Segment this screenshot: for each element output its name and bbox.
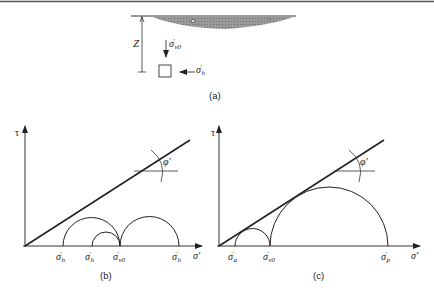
caption-a: (a)	[209, 90, 221, 101]
panel-c	[217, 126, 420, 247]
sigma-h-active-label: σ′h	[56, 250, 65, 264]
sigma-p-label: σ′p	[381, 250, 390, 264]
soil-mass	[150, 16, 296, 29]
mohr-circle-passive	[120, 217, 179, 246]
tau-axis-label: τ	[15, 127, 19, 138]
caption-c: (c)	[313, 270, 324, 281]
caption-b: (b)	[100, 270, 112, 281]
mohr-circle-passive	[270, 187, 388, 246]
tau-axis-label: τ	[211, 127, 215, 138]
friction-angle-label: φ′	[163, 156, 171, 167]
depth-label: Z	[133, 37, 139, 49]
sigma-axis-label: σ′	[193, 250, 200, 261]
sigma-v0-label: σ′v0	[113, 250, 125, 264]
sigma-h-passive-label: σ′h	[172, 250, 181, 264]
soil-pebble	[191, 19, 194, 22]
sigma-v0-label: σ′v0	[263, 250, 275, 264]
sigma-h-intermediate-label: σ′h	[85, 250, 94, 264]
mohr-circle-active	[235, 229, 270, 247]
horizontal-stress-label: σ′h	[196, 63, 205, 77]
diagram-canvas	[0, 0, 434, 295]
soil-element	[159, 65, 171, 77]
panel-a	[131, 16, 296, 77]
sigma-a-label: σ′a	[228, 250, 237, 264]
panel-b	[23, 126, 202, 247]
mohr-circle-intermediate	[92, 232, 120, 246]
friction-angle-label: φ′	[360, 156, 368, 167]
soil-pebble	[268, 18, 270, 20]
friction-angle-arc	[349, 150, 361, 182]
vertical-stress-label: σ′v0	[169, 37, 181, 51]
friction-angle-arc	[151, 150, 163, 182]
sigma-axis-label: σ′	[411, 250, 418, 261]
mohr-circle-active	[63, 218, 120, 246]
